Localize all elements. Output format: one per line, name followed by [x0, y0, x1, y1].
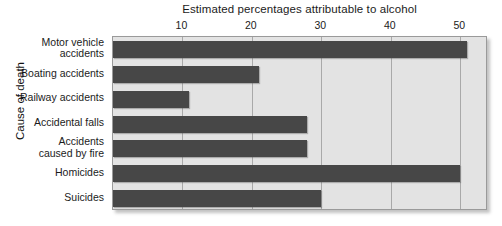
bar-2 [113, 91, 189, 108]
bar-0 [113, 41, 467, 58]
x-axis-tick-30: 30 [314, 19, 326, 31]
bar-5 [113, 165, 460, 182]
y-axis-title: Cause of death [14, 53, 26, 149]
plot-inner [113, 37, 486, 209]
plot-area [112, 36, 487, 210]
x-axis-tick-labels: 1020304050 [0, 19, 502, 34]
bar-chart: Estimated percentages attributable to al… [0, 0, 502, 226]
bars-group [113, 37, 486, 209]
x-axis-tick-10: 10 [176, 19, 188, 31]
x-axis-tick-50: 50 [453, 19, 465, 31]
category-label-6: Suicides [0, 192, 108, 204]
bar-4 [113, 140, 307, 157]
x-axis-tick-20: 20 [245, 19, 257, 31]
category-label-5: Homicides [0, 167, 108, 179]
bar-6 [113, 190, 321, 207]
bar-3 [113, 116, 307, 133]
x-axis-tick-40: 40 [384, 19, 396, 31]
chart-title: Estimated percentages attributable to al… [112, 3, 487, 15]
bar-1 [113, 66, 259, 83]
